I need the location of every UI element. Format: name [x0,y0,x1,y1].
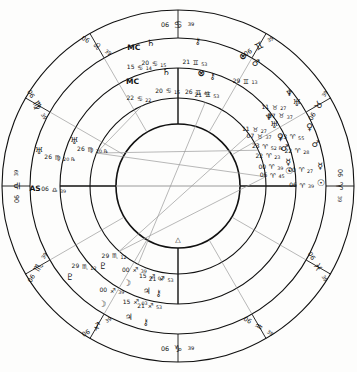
cusp-gemini-minute: 39 [266,35,275,44]
planet-neptune-inner: ♆11♉27 [242,112,273,134]
astrology-chart-wheel: △06♈3906♉3906♊3906♋3906♌3906♍3906♎3906♏3… [0,0,357,372]
cusp-aries-minute: 39 [337,196,343,203]
planet-uranusb-outer-degree: 26 [44,153,52,160]
planet-neptune-outer-sign: ♉ [272,104,278,112]
planet-uranusb-inner: ♅26♍20℞ [70,136,108,154]
cusp-cancer-glyph: ♋ [174,19,183,30]
cusp-aries-glyph: ♈ [334,182,345,191]
planet-mars-outer-sign: ♈ [295,147,301,155]
cusp-libra-degree: 06 [13,195,21,203]
planet-chiron-outer-glyph: ⚷ [195,36,202,46]
planet-neptune-outer-minute: 27 [280,106,286,111]
cusp-capricorn-glyph: ♑ [174,343,183,354]
planet-neptune-inner-glyph: ♆ [265,112,273,122]
cusp-libra-glyph: ♎ [11,182,22,191]
planet-pluto-outer-degree: 29 [72,262,80,269]
planet-mars-outer-glyph: ♂ [311,139,319,149]
cusp-leo: 06♌39 [79,32,113,58]
planet-chiron-outer: ⚷21♊53 [182,36,207,66]
cusp-aries: 06♈39 [334,169,345,202]
planet-moon-inner-glyph: ☽ [123,278,131,288]
cusp-taurus-glyph: ♉ [311,99,325,112]
planet-fortune-outer-glyph: ⊗ [239,51,247,61]
planet-saturn-inner-degree: 20 [155,87,163,94]
planet-sun-inner-glyph: ☉ [285,166,293,176]
planet-marsb-outer: ♂29♊13 [233,58,260,86]
planet-venus-outer-sign: ♈ [290,133,296,141]
planet-as-outer-glyph: AS [29,184,40,193]
planet-chironb-inner-glyph: ⚷ [155,288,162,298]
planet-neptune-inner-sign: ♉ [252,126,258,134]
cusp-virgo-minute: 39 [40,112,49,121]
planet-mc-inner-glyph: MC [126,77,139,86]
planet-saturn-inner: ♄20♋15 [155,67,180,96]
planet-mercury-inner-glyph: ☿ [285,157,291,167]
planet-chironb-outer-sign: ♐ [148,302,154,310]
cusp-taurus-minute: 39 [321,89,330,98]
planet-mercury-outer-minute: 27 [307,169,313,174]
planet-jupiter-outer-degree: 15 [123,298,131,305]
planet-mercury-outer-sign: ♈ [299,166,305,174]
planet-chironb-inner-degree: 21 [149,275,157,282]
cusp-leo-degree: 06 [80,34,91,45]
planet-fortune-outer: ⊗ [239,51,247,61]
planet-mars-outer-minute: 28 [303,150,309,155]
planet-chiron-outer-degree: 21 [182,58,190,65]
cusp-cancer-degree: 06 [161,21,169,29]
cusp-gemini-glyph: ♊ [253,39,266,53]
cusp-cancer: 06♋39 [161,19,194,30]
cusp-libra-minute: 39 [13,170,19,177]
planet-fortune-inner-sign: ♊ [195,89,201,97]
planet-fortune-inner-degree: 26 [185,88,193,95]
planet-sun-outer-glyph: ☉ [317,178,325,188]
planet-chiron-outer-minute: 53 [201,62,207,67]
planet-chironb-inner-minute: 53 [167,278,173,283]
planet-uranusb-outer-glyph: ♅ [35,146,43,156]
planet-mc-inner-degree: 22 [127,94,135,101]
planet-uranus-outer-sign: ♉ [278,112,284,120]
aspect-line-3 [119,177,265,252]
cusp-sagittarius-degree: 06 [80,328,91,339]
planet-as-outer-sign: ♎ [52,186,58,194]
planet-venus-outer-minute: 55 [298,136,304,141]
cusp-scorpio-glyph: ♏ [31,260,45,273]
planet-moon-inner-degree: 00 [122,266,130,273]
cusp-leo-glyph: ♌ [91,39,104,53]
planet-mercury-inner-degree: 00 [258,163,266,170]
cusp-taurus: 06♉39 [305,88,331,122]
planet-moon-outer-sign: ♐ [110,287,116,295]
planet-uranusb-outer-minute: 20 [63,157,69,162]
cusp-pisces-degree: 06 [306,250,317,261]
cusp-aquarius-degree: 06 [242,315,253,326]
planet-chiron-outer-sign: ♊ [193,59,199,67]
planet-jupiter-inner-degree: 15 [139,272,147,279]
planet-mc-inner: MC22♋22 [126,77,151,103]
cusp-capricorn-degree: 06 [161,345,169,353]
planet-sun-inner-sign: ♈ [270,172,276,180]
planet-chironb-inner: ⚷21♐53 [149,275,174,299]
planet-venus-inner-glyph: ♀ [277,132,284,142]
planet-uranusb-inner-minute: 20 [96,149,102,154]
planet-mercury-inner-minute: 39 [277,166,283,171]
planet-marsb-outer-glyph: ♂ [252,58,260,68]
planet-marsb-outer-minute: 13 [251,80,257,85]
planet-marsb-outer-degree: 29 [233,77,241,84]
planet-mercury-outer-glyph: ☿ [317,161,323,171]
planet-fortune-inner-minute: 41 [204,91,210,96]
house-division-5 [232,217,306,260]
planet-uranus-outer-glyph: ♅ [293,98,301,108]
planet-venus-inner-minute: 52 [271,146,277,151]
planet-pluto-outer-minute: 12 [90,266,96,271]
planet-sun-outer-degree: 06 [289,181,297,188]
chart-wheel-svg: △06♈3906♉3906♊3906♋3906♌3906♍3906♎3906♏3… [0,0,357,372]
planet-jupiter-outer-glyph: ♃ [125,312,133,322]
aspect-line-4 [96,106,142,153]
aspect-line-2 [96,150,258,153]
planet-sun-outer-minute: 39 [308,184,314,189]
planet-mars-inner-sign: ♈ [266,152,272,160]
planet-uranusb-outer-retrograde: ℞ [71,157,75,162]
planet-as-outer-minute: 39 [60,189,66,194]
planet-moon-outer-minute: 39 [118,290,124,295]
planet-venus-inner-sign: ♈ [262,143,268,151]
planet-chironb-inner-sign: ♐ [159,275,165,283]
